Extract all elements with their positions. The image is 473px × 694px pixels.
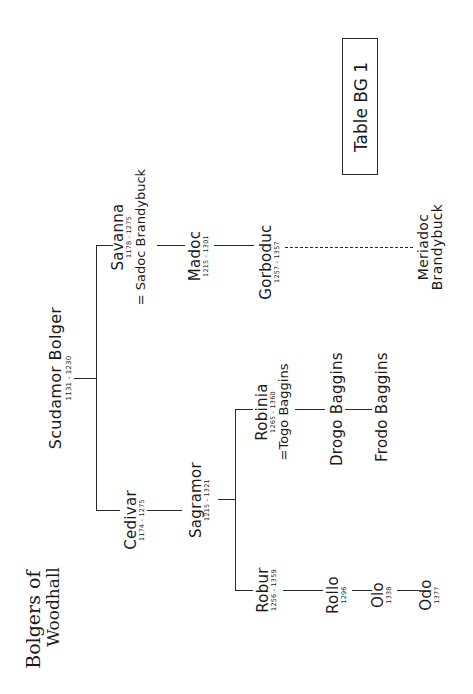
connector-line (235, 409, 253, 410)
person-olo: Olo 1338 (371, 582, 393, 608)
person-name: Scudamor Bolger (48, 307, 64, 449)
connector-line (214, 245, 254, 246)
person-spouse: =Togo Baggins (276, 364, 289, 461)
person-robur: Robur 1256 - 1359 (256, 567, 278, 613)
person-name: Drogo Baggins (330, 352, 345, 466)
person-rollo: Rollo 1296 (326, 576, 348, 614)
title-line-1: Bolgers of (24, 567, 43, 669)
person-name: Robinia (255, 364, 270, 461)
person-name: Gorboduc (259, 224, 274, 299)
person-name: Robur (256, 567, 271, 613)
person-robinia: Robinia 1265 - 1360 =Togo Baggins (255, 364, 290, 461)
person-name-line-2: Brandybuck (430, 204, 444, 291)
person-name: Sagramor (189, 462, 204, 538)
person-cedivar: Cedivar 1174 - 1275 (124, 490, 146, 550)
dashed-descent-line (285, 247, 413, 248)
connector-line (235, 409, 236, 591)
person-name: Rollo (326, 576, 341, 614)
connector-line (218, 499, 235, 500)
person-savanna: Savanna 1178 - 1275 = Sadoc Brandybuck (111, 169, 147, 305)
connector-line (397, 590, 419, 591)
connector-line (96, 245, 97, 511)
person-dates: 1178 - 1275 (126, 169, 133, 305)
person-name: Cedivar (124, 490, 139, 550)
person-dates: 1131 - 1230 (66, 307, 73, 449)
person-dates: 1215 - 1301 (203, 231, 210, 282)
diagram-title: Bolgers of Woodhall (24, 567, 62, 669)
connector-line (74, 378, 96, 379)
person-name: Madoc (188, 231, 203, 282)
person-madoc: Madoc 1215 - 1301 (188, 231, 210, 282)
person-scudamor: Scudamor Bolger 1131 - 1230 (48, 307, 73, 449)
person-name: Odo (419, 579, 434, 610)
table-label-box: Table BG 1 (342, 38, 378, 175)
person-name: Meriadoc (416, 204, 430, 291)
person-name: Olo (371, 582, 386, 608)
person-frodo: Frodo Baggins (375, 352, 390, 462)
person-gorboduc: Gorboduc 1257 - 1357 (259, 224, 281, 299)
person-sagramor: Sagramor 1215 - 1321 (189, 462, 211, 538)
connector-line (295, 409, 325, 410)
connector-line (235, 590, 253, 591)
connector-line (96, 510, 120, 511)
table-label: Table BG 1 (353, 62, 370, 152)
person-dates: 1256 - 1359 (271, 567, 278, 613)
person-odo: Odo 1377 (419, 579, 441, 610)
connector-line (345, 409, 372, 410)
connector-line (147, 510, 182, 511)
person-name: Frodo Baggins (375, 352, 390, 462)
person-drogo: Drogo Baggins (330, 352, 345, 466)
person-spouse: = Sadoc Brandybuck (134, 169, 147, 305)
title-line-2: Woodhall (45, 567, 62, 647)
person-name: Savanna (111, 169, 126, 305)
connector-line (283, 590, 323, 591)
person-meriadoc: Meriadoc Brandybuck (416, 204, 444, 291)
connector-line (157, 245, 185, 246)
